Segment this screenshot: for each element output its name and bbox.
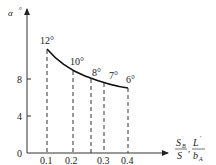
- x-axis-label: S B S , L ' b A: [175, 134, 205, 162]
- y-tick-label-8: 8: [17, 74, 22, 85]
- y-axis-label-deg: °: [19, 6, 22, 14]
- curve: [47, 49, 128, 88]
- origin-label: 0: [17, 148, 22, 159]
- svg-text:B: B: [182, 143, 186, 149]
- x-tick-label-0.4: 0.4: [121, 155, 134, 165]
- svg-text:,: ,: [188, 144, 190, 154]
- y-tick-label-4: 4: [17, 111, 22, 122]
- drop-lines: [47, 50, 128, 153]
- x-tick-label-0.2: 0.2: [65, 155, 78, 165]
- y-axis-label-alpha: α: [8, 8, 13, 18]
- x-tick-label-0.3: 0.3: [97, 155, 110, 165]
- svg-text:': ': [200, 134, 201, 142]
- x-tick-label-0.1: 0.1: [40, 155, 53, 165]
- point-label-8: 8°: [92, 67, 101, 78]
- svg-text:A: A: [198, 156, 203, 162]
- point-label-12: 12°: [40, 35, 54, 46]
- svg-text:S: S: [176, 137, 181, 148]
- svg-text:S: S: [177, 150, 182, 161]
- point-label-6: 6°: [126, 74, 135, 85]
- chart: α ° 8 4 0 12° 10° 8° 7° 6° 0.1 0.2 0.3 0…: [0, 0, 216, 165]
- point-label-7: 7°: [109, 70, 118, 81]
- point-label-10: 10°: [70, 56, 84, 67]
- svg-text:L: L: [192, 137, 199, 148]
- svg-text:b: b: [193, 150, 198, 161]
